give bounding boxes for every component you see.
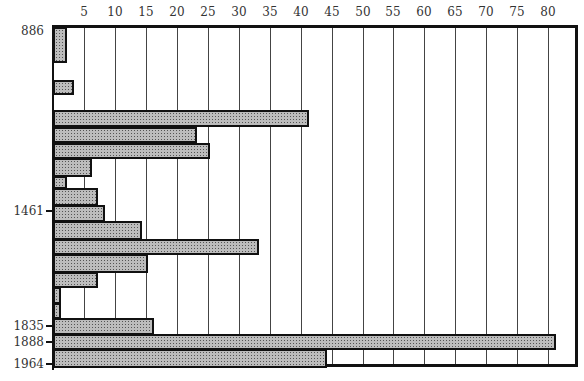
x-tick-label: 15 [138, 5, 153, 19]
x-tick-label: 40 [293, 5, 308, 19]
x-tick-label: 10 [107, 5, 122, 19]
plot-frame [52, 25, 578, 367]
bar [53, 318, 154, 335]
y-tick-label: 1964 [13, 357, 44, 371]
bar [53, 158, 92, 177]
y-tick-mark [46, 341, 53, 343]
bar [53, 110, 309, 127]
y-tick-label: 886 [21, 24, 44, 38]
bar [53, 127, 197, 143]
bar [53, 303, 61, 319]
x-tick-label: 45 [324, 5, 339, 19]
bar [53, 143, 210, 159]
x-tick-label: 60 [416, 5, 431, 19]
x-tick-label: 35 [262, 5, 277, 19]
y-tick-mark [46, 363, 53, 365]
x-tick-label: 80 [540, 5, 555, 19]
y-tick-mark [46, 325, 53, 327]
x-tick-label: 25 [200, 5, 215, 19]
bar [53, 239, 259, 255]
y-tick-label: 1888 [13, 335, 44, 349]
histogram-chart: 5101520253035404550556065707580 88614611… [0, 0, 584, 381]
bar [53, 272, 98, 288]
x-tick-label: 30 [231, 5, 246, 19]
x-tick-label: 5 [80, 5, 88, 19]
bar [53, 188, 98, 206]
bar [53, 205, 105, 222]
y-tick-mark [46, 210, 53, 212]
x-tick-label: 65 [447, 5, 462, 19]
x-tick-label: 50 [355, 5, 370, 19]
x-tick-label: 55 [385, 5, 400, 19]
x-tick-label: 70 [478, 5, 493, 19]
bar [53, 334, 556, 350]
x-tick-label: 75 [509, 5, 524, 19]
x-tick-label: 20 [169, 5, 184, 19]
bar [53, 221, 142, 240]
bar [53, 27, 67, 63]
bar [53, 287, 61, 304]
bar [53, 254, 148, 273]
y-axis [52, 25, 54, 370]
bar [53, 80, 74, 95]
y-tick-label: 1461 [13, 204, 44, 218]
y-tick-label: 1835 [13, 319, 44, 333]
bar [53, 349, 327, 368]
